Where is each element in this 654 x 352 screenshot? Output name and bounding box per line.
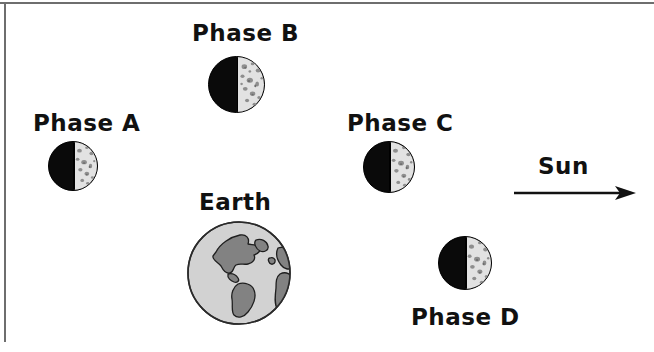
phase-a-label: Phase A [33,112,140,135]
earth-globe [186,220,292,326]
diagram-left-border [4,2,6,342]
moon-phase-c [363,141,415,193]
moon-b-terminator [237,57,239,112]
phase-b-label: Phase B [192,22,299,45]
moon-phase-d [438,236,492,290]
moon-c-terminator [389,142,391,192]
moon-phase-a [48,141,98,191]
phase-d-label: Phase D [411,306,520,329]
moon-b-craters [237,57,265,112]
moon-d-terminator [465,237,467,289]
phase-c-label: Phase C [347,112,453,135]
diagram-top-border [0,2,654,4]
moon-d-dark-half [439,237,465,289]
moon-c-dark-half [364,142,389,192]
moon-phase-b [208,56,265,113]
moon-d-craters [465,237,491,289]
sun-direction-arrow-icon [512,182,638,204]
moon-a-craters [73,142,97,190]
earth-landmass-island-a [268,258,275,265]
moon-phase-diagram: Phase B [0,0,654,352]
moon-c-craters [389,142,414,192]
moon-b-dark-half [209,57,237,112]
moon-a-terminator [73,142,75,190]
moon-a-dark-half [49,142,73,190]
sun-label: Sun [538,155,589,178]
earth-label: Earth [199,191,271,214]
